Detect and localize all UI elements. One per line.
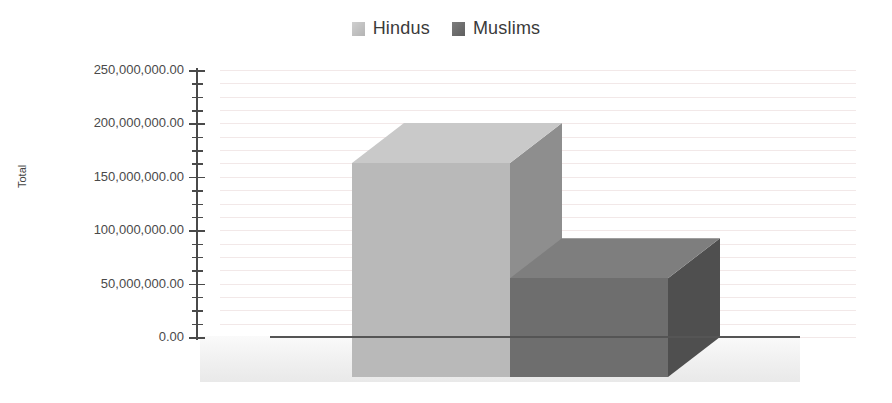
y-tick-minor xyxy=(192,257,203,259)
y-tick-label: 150,000,000.00 xyxy=(54,169,184,184)
y-tick-major xyxy=(189,284,205,286)
y-tick-minor xyxy=(192,324,203,326)
y-tick-minor xyxy=(192,217,203,219)
y-tick-label: 250,000,000.00 xyxy=(54,62,184,77)
y-tick-minor xyxy=(192,297,203,299)
y-tick-minor xyxy=(192,190,203,192)
bar-hindus[interactable] xyxy=(352,163,510,377)
zero-baseline xyxy=(270,336,800,338)
bar-muslims-front-face xyxy=(510,278,668,377)
y-tick-minor xyxy=(192,83,203,85)
y-tick-major xyxy=(189,337,205,339)
bar-hindus-front-face xyxy=(352,163,510,377)
y-tick-minor xyxy=(192,310,203,312)
y-tick-minor xyxy=(192,110,203,112)
y-tick-minor xyxy=(192,204,203,206)
y-axis-title: Total xyxy=(16,165,28,188)
y-tick-minor xyxy=(192,97,203,99)
y-tick-label: 0.00 xyxy=(54,329,184,344)
y-tick-minor xyxy=(192,163,203,165)
y-tick-major xyxy=(189,123,205,125)
y-tick-major xyxy=(189,70,205,72)
bar-chart-3d: Hindus Muslims 0.0050,000,000.00100,000,… xyxy=(0,0,892,403)
y-tick-minor xyxy=(192,270,203,272)
y-tick-label: 200,000,000.00 xyxy=(54,115,184,130)
bar-muslims[interactable] xyxy=(510,278,668,377)
y-tick-label: 100,000,000.00 xyxy=(54,222,184,237)
y-tick-minor xyxy=(192,150,203,152)
y-axis-tick-labels: 0.0050,000,000.00100,000,000.00150,000,0… xyxy=(52,0,184,403)
y-tick-minor xyxy=(192,244,203,246)
y-tick-minor xyxy=(192,137,203,139)
y-tick-major xyxy=(189,230,205,232)
y-tick-major xyxy=(189,177,205,179)
y-tick-label: 50,000,000.00 xyxy=(54,276,184,291)
